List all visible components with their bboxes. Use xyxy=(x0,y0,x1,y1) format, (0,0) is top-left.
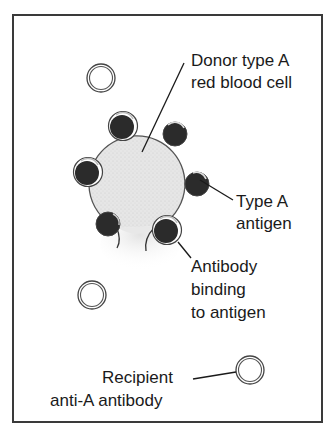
label-recipient-antibody-line1: Recipient xyxy=(102,368,173,388)
label-donor-cell-line2: red blood cell xyxy=(191,73,292,93)
antigen-2 xyxy=(163,122,187,146)
antigen-5 xyxy=(96,212,120,236)
diagram-canvas: Donor type A red blood cell Type A antig… xyxy=(0,0,336,435)
label-antigen-line1: Type A xyxy=(236,192,288,212)
antigen-bound-1 xyxy=(109,112,138,141)
label-bound-antibody-line1: Antibody xyxy=(191,257,257,277)
recipient-antibody xyxy=(236,356,264,384)
label-antigen-line2: antigen xyxy=(236,214,292,234)
label-bound-antibody-line3: to antigen xyxy=(191,303,266,323)
leader-line-recipient-antibody xyxy=(193,372,236,379)
label-donor-cell-line1: Donor type A xyxy=(191,51,289,71)
antigen-bound-3 xyxy=(74,158,103,187)
free-antibody-2 xyxy=(78,281,106,309)
label-recipient-antibody-line2: anti-A antibody xyxy=(50,391,162,411)
free-antibody-1 xyxy=(87,64,115,92)
antigen-bound-6 xyxy=(153,216,182,245)
leader-line-bound-antibody xyxy=(178,242,191,258)
label-bound-antibody-line2: binding xyxy=(191,280,246,300)
